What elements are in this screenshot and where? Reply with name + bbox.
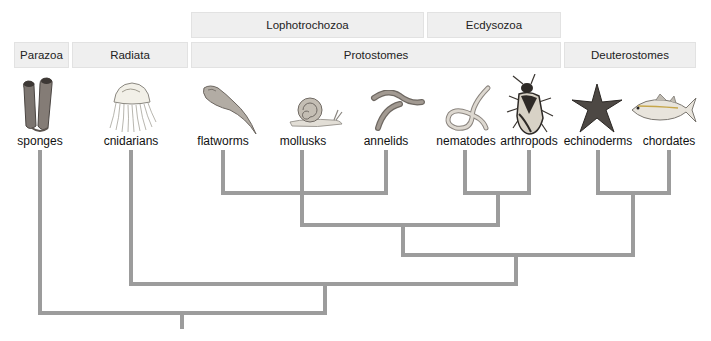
phylogenetic-tree <box>0 0 711 341</box>
